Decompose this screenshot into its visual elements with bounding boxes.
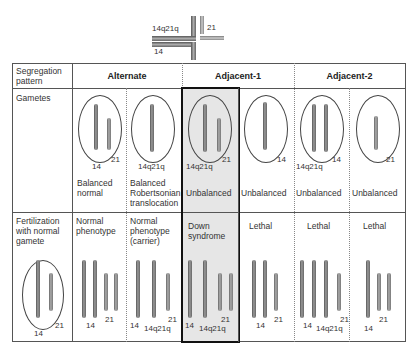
gamete-status: Unbalanced bbox=[241, 188, 286, 198]
fused-chromosome-horizontal bbox=[152, 36, 196, 41]
row-header-fertilization: Fertilization with normal gamete bbox=[16, 216, 71, 246]
column-header-alternate: Alternate bbox=[72, 71, 182, 81]
gamete-status: Balanced Robertsonian translocation bbox=[130, 178, 182, 208]
chr21-horizontal bbox=[200, 36, 224, 40]
chr21-vertical bbox=[200, 16, 204, 34]
column-header-adjacent-1: Adjacent-1 bbox=[182, 71, 294, 81]
legend-14-label: 14 bbox=[154, 47, 163, 56]
gamete-status: Unbalanced bbox=[296, 188, 341, 198]
gamete-status: Unbalanced bbox=[352, 188, 397, 198]
fused-chromosome-vertical bbox=[191, 16, 196, 36]
chr14-vertical bbox=[191, 42, 196, 60]
row-header-gametes: Gametes bbox=[16, 93, 51, 103]
column-header-adjacent-2: Adjacent-2 bbox=[294, 71, 405, 81]
gamete-status: Balanced normal bbox=[77, 178, 125, 198]
translocation-legend: 14q21q 21 14 bbox=[140, 10, 260, 60]
legend-fused-label: 14q21q bbox=[152, 24, 179, 33]
gamete-status: Unbalanced bbox=[186, 188, 231, 198]
row-header-segregation: Segregation pattern bbox=[16, 66, 71, 86]
legend-21-label: 21 bbox=[207, 23, 216, 32]
